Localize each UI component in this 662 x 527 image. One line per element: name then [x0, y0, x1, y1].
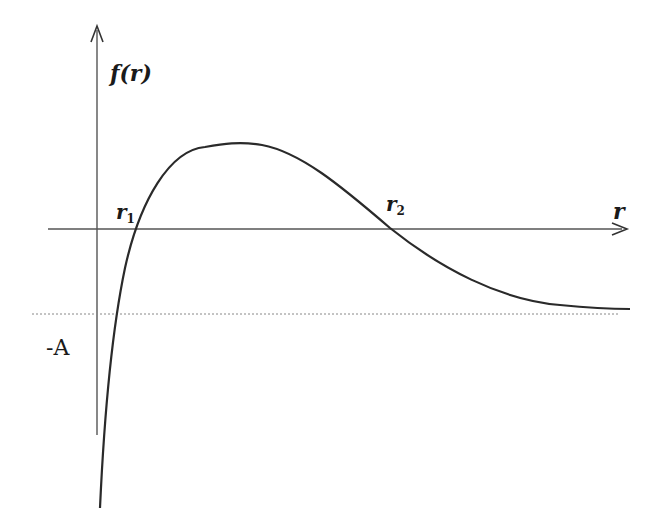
root2-label: r2: [386, 192, 405, 218]
root1-label: r1: [116, 200, 135, 226]
y-axis-label: f(r): [110, 60, 152, 86]
function-curve: [100, 143, 630, 508]
diagram-canvas: [0, 0, 662, 527]
x-axis-label: r: [613, 198, 625, 224]
asymptote-label: -A: [46, 335, 69, 360]
